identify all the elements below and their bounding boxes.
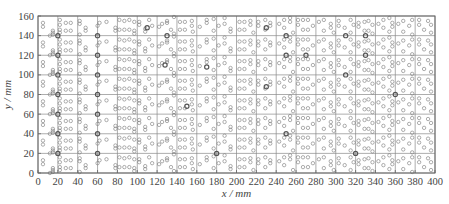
data-point (296, 121, 299, 124)
data-point (257, 118, 260, 121)
data-point (332, 129, 335, 132)
data-point (422, 67, 425, 70)
data-point (343, 65, 346, 68)
data-point (301, 28, 304, 31)
data-point (291, 51, 294, 54)
data-point (288, 158, 291, 161)
data-point (417, 82, 420, 85)
data-point (429, 31, 432, 34)
data-point (212, 108, 215, 111)
data-point (388, 109, 391, 112)
data-point (249, 157, 252, 160)
data-point (306, 126, 309, 129)
data-point (306, 97, 309, 100)
data-point (150, 24, 153, 27)
data-point (357, 45, 360, 48)
data-point (306, 38, 309, 41)
data-point (377, 42, 380, 45)
data-point (402, 109, 405, 112)
data-point (128, 67, 131, 70)
data-point (349, 129, 352, 132)
data-point (190, 157, 193, 160)
data-point (223, 140, 226, 143)
data-point (402, 167, 405, 170)
data-point (337, 142, 340, 145)
data-point (429, 161, 432, 164)
data-point (264, 77, 267, 80)
data-point (183, 67, 186, 70)
data-point (391, 25, 394, 28)
data-point (118, 165, 121, 168)
data-point (190, 39, 193, 42)
data-point (371, 52, 374, 55)
data-point (238, 87, 241, 90)
data-point (357, 80, 360, 83)
data-point (397, 61, 400, 64)
data-point (41, 119, 44, 122)
data-point (243, 146, 246, 149)
data-point (377, 120, 380, 123)
data-point (243, 158, 246, 161)
data-point (147, 18, 150, 21)
data-point (190, 103, 193, 106)
data-point (337, 78, 340, 81)
data-point (306, 77, 309, 80)
data-point (363, 166, 366, 169)
data-point (264, 136, 267, 139)
data-point (329, 163, 332, 166)
data-point (128, 136, 131, 139)
data-point (363, 29, 366, 32)
data-point (352, 121, 355, 124)
data-point (105, 40, 108, 43)
data-point (238, 20, 241, 23)
data-point (371, 82, 374, 85)
data-point (322, 29, 325, 32)
data-point (429, 109, 432, 112)
data-point (198, 64, 201, 67)
data-point (329, 144, 332, 147)
data-point (357, 162, 360, 165)
data-point (288, 56, 291, 59)
data-point (183, 48, 186, 51)
data-point (58, 141, 61, 144)
data-point (172, 169, 175, 172)
data-point (183, 59, 186, 62)
data-point (128, 156, 131, 159)
data-point (178, 40, 181, 43)
x-tick-label: 40 (72, 176, 83, 187)
data-point (243, 118, 246, 121)
data-point (238, 59, 241, 62)
data-point (391, 45, 394, 48)
data-point (343, 46, 346, 49)
data-point (306, 48, 309, 51)
data-point (422, 28, 425, 31)
data-point (317, 118, 320, 121)
data-point (417, 62, 420, 65)
data-point (243, 87, 246, 90)
data-point (58, 116, 61, 119)
data-point (118, 28, 121, 31)
data-point (322, 68, 325, 71)
data-point (41, 25, 44, 28)
data-point (223, 75, 226, 78)
data-point (352, 161, 355, 164)
data-point (357, 104, 360, 107)
y-tick-label: 160 (18, 11, 34, 22)
x-tick-label: 100 (129, 176, 145, 187)
data-point (422, 48, 425, 51)
data-point (58, 62, 61, 65)
data-point (64, 119, 67, 122)
data-point (64, 147, 67, 150)
data-point (190, 142, 193, 145)
data-point (58, 136, 61, 139)
data-point (252, 90, 255, 93)
data-point (277, 160, 280, 163)
data-point (128, 18, 131, 21)
data-point (322, 97, 325, 100)
data-point (133, 79, 136, 82)
data-point (382, 38, 385, 41)
data-point (118, 18, 121, 21)
data-point (337, 103, 340, 106)
data-point (301, 146, 304, 149)
data-point (58, 77, 61, 80)
